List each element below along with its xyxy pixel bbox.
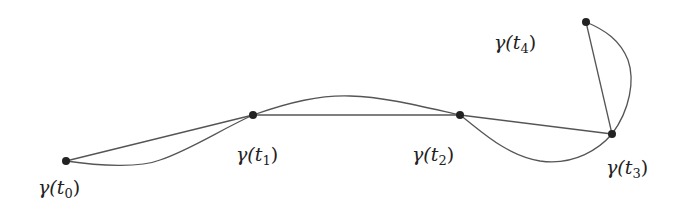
point-t2 xyxy=(456,111,464,119)
curve-t1-t2 xyxy=(253,96,460,115)
point-t4 xyxy=(582,18,590,26)
path-diagram: γ(t0) γ(t1) γ(t2) γ(t3) γ(t4) xyxy=(0,0,692,212)
label-t2: γ(t2) xyxy=(412,143,454,168)
chord-t0-t1 xyxy=(66,115,253,161)
chord-t2-t3 xyxy=(460,115,612,134)
label-t3: γ(t3) xyxy=(606,156,648,181)
chord-t3-t4 xyxy=(586,22,612,134)
label-t4: γ(t4) xyxy=(494,31,536,56)
point-t0 xyxy=(62,157,70,165)
point-t3 xyxy=(608,130,616,138)
curve-t2-t3 xyxy=(460,115,612,162)
label-t1: γ(t1) xyxy=(236,143,278,168)
point-t1 xyxy=(249,111,257,119)
label-t0: γ(t0) xyxy=(38,176,80,201)
